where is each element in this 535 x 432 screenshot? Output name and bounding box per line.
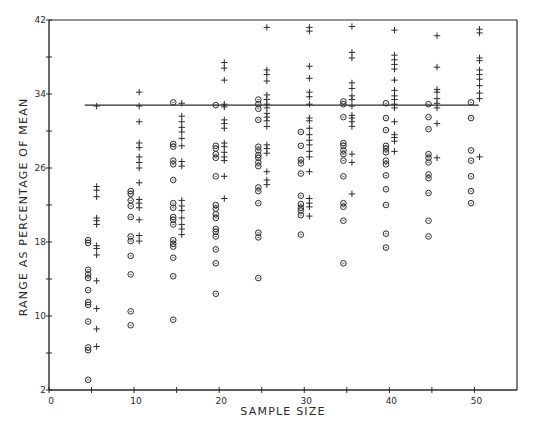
plus-marker bbox=[306, 28, 312, 34]
plus-marker bbox=[434, 33, 440, 39]
circle-marker bbox=[468, 188, 474, 194]
plus-marker bbox=[264, 123, 270, 129]
plus-marker bbox=[349, 191, 355, 197]
plus-marker bbox=[93, 245, 99, 251]
circle-marker bbox=[298, 161, 304, 167]
circle-marker bbox=[468, 148, 474, 154]
circle-marker bbox=[298, 232, 304, 238]
circle-marker bbox=[170, 317, 176, 323]
plus-marker bbox=[93, 252, 99, 258]
plus-marker bbox=[93, 343, 99, 349]
plus-marker bbox=[306, 169, 312, 175]
plus-marker bbox=[476, 30, 482, 36]
plus-marker bbox=[136, 103, 142, 109]
circle-marker bbox=[256, 163, 262, 169]
plus-marker bbox=[179, 163, 185, 169]
plus-marker bbox=[179, 135, 185, 141]
circle-marker bbox=[298, 193, 304, 199]
circle-marker bbox=[341, 218, 347, 224]
circle-marker bbox=[383, 162, 389, 168]
plus-marker bbox=[476, 95, 482, 101]
circle-marker bbox=[341, 204, 347, 210]
circle-marker bbox=[170, 244, 176, 250]
plus-marker bbox=[221, 65, 227, 71]
plus-marker bbox=[349, 123, 355, 129]
plus-marker bbox=[93, 326, 99, 332]
plus-marker bbox=[349, 103, 355, 109]
x-axis: 01020304050 bbox=[48, 387, 517, 406]
circle-marker bbox=[170, 177, 176, 183]
plus-marker bbox=[306, 204, 312, 210]
x-tick-label: 0 bbox=[48, 396, 54, 406]
plus-marker bbox=[136, 205, 142, 211]
plus-marker bbox=[349, 80, 355, 86]
plus-marker bbox=[306, 125, 312, 131]
plus-marker bbox=[349, 85, 355, 91]
plus-marker bbox=[136, 165, 142, 171]
plus-marker bbox=[306, 94, 312, 100]
plus-marker bbox=[221, 77, 227, 83]
circle-marker bbox=[256, 188, 262, 194]
circle-marker bbox=[170, 162, 176, 168]
plus-marker bbox=[391, 148, 397, 154]
plus-marker bbox=[221, 195, 227, 201]
plus-marker bbox=[179, 207, 185, 213]
circle-marker bbox=[468, 115, 474, 121]
circle-marker bbox=[213, 247, 219, 253]
plus-marker bbox=[136, 89, 142, 95]
plus-marker bbox=[349, 49, 355, 55]
x-tick-label: 40 bbox=[386, 396, 398, 406]
plus-marker bbox=[306, 101, 312, 107]
plus-marker bbox=[221, 144, 227, 150]
circle-marker bbox=[213, 260, 219, 266]
plus-marker bbox=[391, 138, 397, 144]
plus-marker bbox=[476, 58, 482, 64]
plus-marker bbox=[476, 82, 482, 88]
circle-marker bbox=[298, 143, 304, 149]
plus-marker bbox=[476, 154, 482, 160]
plus-marker bbox=[136, 217, 142, 223]
plus-marker bbox=[93, 193, 99, 199]
circle-marker bbox=[341, 158, 347, 164]
plus-marker bbox=[349, 151, 355, 157]
plus-marker bbox=[434, 155, 440, 161]
circle-marker bbox=[383, 173, 389, 179]
y-tick-label: 10 bbox=[35, 311, 47, 321]
plot-frame bbox=[49, 20, 517, 390]
circle-marker bbox=[128, 198, 134, 204]
circle-marker bbox=[85, 347, 91, 353]
plus-marker bbox=[221, 157, 227, 163]
circle-marker bbox=[426, 126, 432, 132]
plus-marker bbox=[306, 142, 312, 148]
circle-marker bbox=[383, 115, 389, 121]
circle-marker bbox=[85, 275, 91, 281]
plus-marker bbox=[179, 197, 185, 203]
circle-marker bbox=[341, 114, 347, 120]
plus-marker bbox=[264, 118, 270, 124]
plus-marker bbox=[306, 63, 312, 69]
circle-marker bbox=[170, 273, 176, 279]
plus-marker bbox=[391, 87, 397, 93]
circle-marker bbox=[468, 174, 474, 180]
circle-marker bbox=[383, 245, 389, 251]
plus-marker bbox=[434, 120, 440, 126]
circle-marker bbox=[341, 260, 347, 266]
plus-marker bbox=[136, 180, 142, 186]
y-axis: 21018263442 bbox=[35, 15, 52, 395]
y-tick-label: 34 bbox=[35, 89, 47, 99]
circle-marker bbox=[468, 200, 474, 206]
data-points bbox=[85, 23, 482, 382]
plus-marker bbox=[349, 55, 355, 61]
circle-marker bbox=[213, 155, 219, 161]
circle-marker bbox=[426, 114, 432, 120]
plus-marker bbox=[306, 118, 312, 124]
plus-marker bbox=[264, 181, 270, 187]
circle-marker bbox=[213, 146, 219, 152]
circle-marker bbox=[128, 191, 134, 197]
plus-marker bbox=[306, 75, 312, 81]
circle-marker bbox=[383, 231, 389, 237]
plus-marker bbox=[264, 78, 270, 84]
x-tick-label: 10 bbox=[130, 396, 142, 406]
plus-marker bbox=[434, 89, 440, 95]
circle-marker bbox=[383, 186, 389, 192]
